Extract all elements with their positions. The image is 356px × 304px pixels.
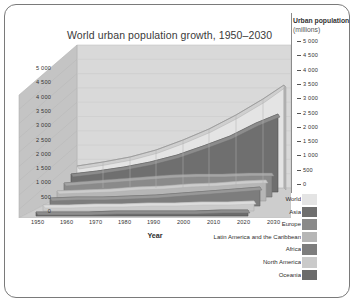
plot-area <box>15 33 291 218</box>
right-tick: 5 000 <box>303 38 318 44</box>
right-tick: 1 000 <box>303 152 318 158</box>
right-tick: 2 500 <box>303 110 318 116</box>
x-tick: 2000 <box>177 219 190 225</box>
legend-label-oceania: Oceania <box>279 269 301 282</box>
right-tick: 500 <box>303 167 313 173</box>
x-tick: 1980 <box>118 219 131 225</box>
right-axis-rule <box>291 13 292 193</box>
legend-swatch-oceania <box>301 269 318 282</box>
three-d-scene <box>15 33 291 218</box>
right-tick: 3 500 <box>303 81 318 87</box>
left-tick: 4 000 <box>36 94 51 100</box>
right-tick: 3 000 <box>303 95 318 101</box>
right-tick: 0 <box>303 181 306 187</box>
legend-swatch-world <box>301 193 318 206</box>
legend-label-world: World <box>285 193 301 206</box>
x-tick: 1960 <box>60 219 73 225</box>
x-tick: 1950 <box>31 219 44 225</box>
right-tick: 1 500 <box>303 138 318 144</box>
left-tick: 5 000 <box>36 65 51 71</box>
right-axis-header-units: (millions) <box>293 26 356 34</box>
right-axis-header-title: Urban population <box>293 17 356 25</box>
legend-swatch-latin-america <box>301 231 318 244</box>
left-tick: 0 <box>48 208 51 214</box>
right-tick: 2 000 <box>303 124 318 130</box>
legend-label-north-america: North America <box>263 256 301 269</box>
left-tick: 4 500 <box>36 79 51 85</box>
legend: World Asia Europe Latin America and the … <box>205 193 353 293</box>
left-axis: 5 000 4 500 4 000 3 500 3 000 2 500 2 00… <box>17 65 51 213</box>
legend-swatch-asia <box>301 206 318 219</box>
legend-label-europe: Europe <box>282 218 301 231</box>
right-tick: 4 000 <box>303 67 318 73</box>
legend-swatch-africa <box>301 243 318 256</box>
left-tick: 3 000 <box>36 122 51 128</box>
left-tick: 2 000 <box>36 151 51 157</box>
x-axis-title: Year <box>115 231 195 240</box>
legend-label-latin-america: Latin America and the Caribbean <box>214 231 301 244</box>
x-tick: 1970 <box>89 219 102 225</box>
chart-frame: World urban population growth, 1950–2030… <box>4 4 350 298</box>
x-tick: 1990 <box>147 219 160 225</box>
left-tick: 3 500 <box>36 108 51 114</box>
legend-swatch-europe <box>301 218 318 231</box>
left-tick: 500 <box>41 194 51 200</box>
left-tick: 1 000 <box>36 179 51 185</box>
left-tick: 1 500 <box>36 165 51 171</box>
right-tick: 4 500 <box>303 52 318 58</box>
legend-label-asia: Asia <box>289 206 301 219</box>
legend-swatch-north-america <box>301 256 318 269</box>
legend-label-africa: Africa <box>286 243 301 256</box>
left-tick: 2 500 <box>36 137 51 143</box>
right-axis: 5 000 4 500 4 000 3 500 3 000 2 500 2 00… <box>297 38 337 193</box>
